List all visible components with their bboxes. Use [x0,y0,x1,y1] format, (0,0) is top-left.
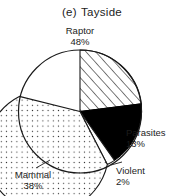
slice-label-mammal-pct: 38% [2,181,64,192]
slice-label-mammal: Mammal 38% [2,170,64,191]
slice-label-parasites: Parasites 13% [126,128,184,149]
slice-label-raptor-name: Raptor [66,25,95,36]
slice-label-parasites-name: Parasites [126,127,166,138]
slice-label-violent: Violent 2% [116,166,172,187]
slice-label-violent-pct: 2% [116,177,172,188]
slice-label-mammal-name: Mammal [15,169,51,180]
pie-slice-raptor [80,50,141,112]
slice-label-violent-name: Violent [116,165,145,176]
pie-chart-figure: (e)Tayside [0,0,184,196]
slice-label-raptor: Raptor 48% [44,26,116,47]
slice-label-raptor-pct: 48% [44,37,116,48]
slice-label-parasites-pct: 13% [126,139,184,150]
